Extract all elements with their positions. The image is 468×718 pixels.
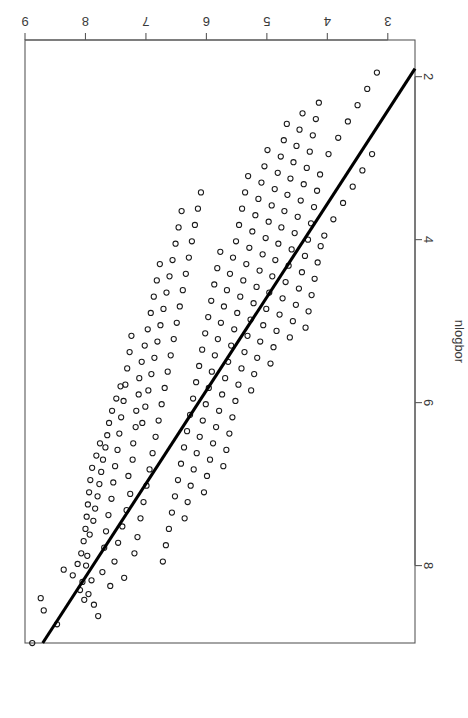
y-axis-tick-label: 8	[421, 562, 436, 569]
plot-canvas: 3456789 2468 fit nlogbor	[0, 0, 468, 718]
x-axis-tick-label: 5	[263, 14, 270, 29]
x-axis-tick-label: 7	[142, 14, 149, 29]
x-axis-tick-label: 8	[82, 14, 89, 29]
x-axis-tick-label: 9	[21, 14, 28, 29]
x-axis-tick-label: 6	[203, 14, 210, 29]
figure-rotation-wrapper: 3456789 2468 fit nlogbor	[0, 0, 468, 718]
y-axis-tick-label: 4	[421, 236, 436, 243]
plot-background	[0, 0, 468, 718]
x-axis-tick-label: 4	[324, 14, 331, 29]
y-axis-tick-label: 2	[421, 73, 436, 80]
y-axis-tick-label: 6	[421, 399, 436, 406]
y-axis-title: nlogbor	[452, 320, 467, 364]
scatter-plot-figure: 3456789 2468 fit nlogbor	[0, 0, 468, 718]
x-axis-tick-label: 3	[384, 14, 391, 29]
